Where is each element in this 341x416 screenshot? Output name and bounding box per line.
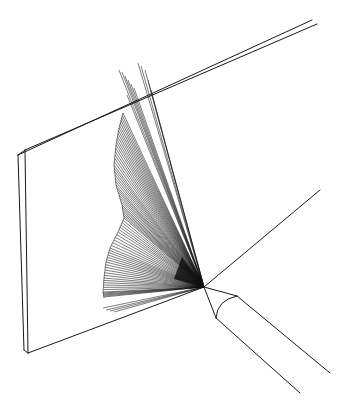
illustration: Line illustration: fan of rays from a pr… — [0, 0, 341, 416]
probe-cone-lower — [204, 287, 216, 318]
plate-left-edge-front — [18, 155, 24, 350]
spray-ray — [118, 134, 204, 287]
probe-body-lower — [216, 318, 300, 393]
plate-bottom-edge-extension — [204, 190, 320, 287]
spray-ray — [115, 152, 204, 287]
plate-top-edge-front — [18, 20, 312, 155]
plate-top-edge-back — [25, 24, 317, 150]
spray-fan — [103, 63, 204, 312]
probe-cone-upper — [204, 287, 237, 296]
plate — [18, 20, 320, 353]
plate-left-edge-back — [25, 150, 28, 353]
plate-corner-bottom — [24, 350, 28, 353]
plate-bottom-edge — [28, 287, 204, 353]
probe-nozzle — [204, 287, 330, 393]
probe-body-upper — [237, 296, 330, 373]
probe-collar-arc — [216, 296, 237, 318]
